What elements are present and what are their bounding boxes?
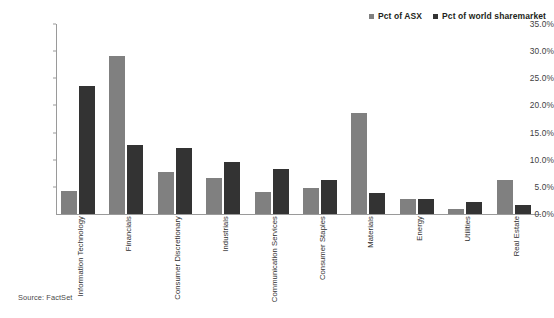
bar-world[interactable] [273,169,289,214]
bar-asx[interactable] [448,209,464,214]
source-note: Source: FactSet [18,293,73,302]
bar-world[interactable] [515,205,531,214]
bar-group [57,24,105,214]
x-axis-category-label: Communication Services [271,216,279,302]
y-axis-tick-mark [53,159,56,160]
bar-asx[interactable] [61,191,77,214]
bar-groups [57,24,541,214]
bar-group [202,24,250,214]
x-axis-category-label: Information Technology [77,216,85,297]
bar-asx[interactable] [158,172,174,214]
bar-group [105,24,153,214]
sector-weight-bar-chart: Pct of ASX Pct of world sharemarket 0.0%… [0,0,554,318]
bar-group [444,24,492,214]
bar-asx[interactable] [109,56,125,215]
x-axis-category-label: Consumer Discretionary [174,216,182,300]
x-axis-category-label: Consumer Staples [319,216,327,280]
x-axis-category-label: Materials [367,216,375,248]
x-axis-category-label: Energy [416,216,424,241]
y-axis-tick-mark [53,132,56,133]
bar-world[interactable] [466,202,482,214]
y-axis-tick-mark [53,78,56,79]
bar-world[interactable] [321,180,337,214]
x-axis-category-labels: Information TechnologyFinancialsConsumer… [57,216,541,290]
bar-world[interactable] [369,193,385,214]
bar-asx[interactable] [206,178,222,214]
x-axis-category-label: Real Estate [513,216,521,256]
y-axis-tick-mark [53,51,56,52]
bar-asx[interactable] [303,188,319,214]
x-axis-line [56,214,541,215]
bar-group [493,24,541,214]
y-axis-tick-mark [53,24,56,25]
bar-world[interactable] [418,199,434,214]
x-axis-category-label: Financials [125,216,133,251]
bar-world[interactable] [79,86,95,214]
y-axis-tick-mark [53,186,56,187]
bar-group [251,24,299,214]
y-axis-tick-mark [53,105,56,106]
bar-group [347,24,395,214]
x-axis-category-label: Utilities [464,216,472,241]
bar-group [396,24,444,214]
bar-world[interactable] [224,162,240,214]
bar-group [154,24,202,214]
bar-world[interactable] [176,148,192,214]
bar-group [299,24,347,214]
bar-asx[interactable] [255,192,271,214]
bar-asx[interactable] [351,113,367,215]
bar-asx[interactable] [497,180,513,214]
bar-asx[interactable] [400,199,416,214]
x-axis-category-label: Industrials [222,216,230,252]
bar-world[interactable] [127,145,143,214]
